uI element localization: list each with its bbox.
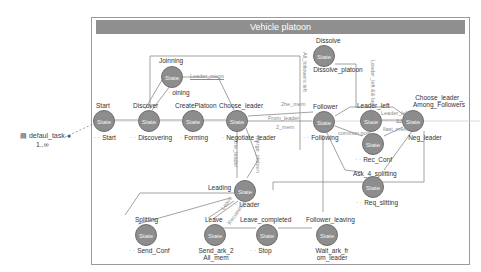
state-name-discover: Discover <box>133 102 158 109</box>
state-action-joinning: ·oining <box>168 89 190 96</box>
task-port-dot-icon: ● <box>67 132 71 139</box>
state-action-choose-leader-among: ·Neg_leader <box>404 134 442 141</box>
task-multiplicity: 1..∞ <box>36 141 49 148</box>
state-action-start: · ·Start <box>94 134 116 141</box>
state-name-joinning: Joinning <box>159 57 183 64</box>
state-name-follower-leaving: Follower_leaving <box>306 216 355 223</box>
state-action-splitting: · ·Send_Conf <box>129 247 170 254</box>
state-splitting[interactable]: State <box>135 224 157 246</box>
state-action-ask-4-splitting: · ·Req_slitting <box>356 199 398 206</box>
transition-label-leader-mego: Leader_mego <box>190 73 224 79</box>
state-name-splitting: Splitting <box>135 216 158 223</box>
transition-label-last-mem: llast_mem <box>383 126 408 132</box>
state-follower[interactable]: State <box>313 111 335 133</box>
state-name-leave: Leave <box>205 216 223 223</box>
transition-label-all-followers-left: All_followers left <box>302 52 308 92</box>
state-name-leading: Leading <box>208 184 231 191</box>
state-follower-leaving[interactable]: State <box>316 224 338 246</box>
transition-label-common-goal: common goal <box>338 130 371 136</box>
state-action-follower: · ·Following <box>303 134 339 141</box>
default-task[interactable]: ▤ defaul_task ● <box>20 132 71 140</box>
transition-label-2he-mem: 2he_mem <box>281 101 305 107</box>
transition-label-leader-left-last-mem: Leader_left && last_mem <box>370 60 376 110</box>
state-action-discover: · ·Discovering <box>130 134 172 141</box>
state-createplatoon[interactable]: State <box>182 110 204 132</box>
state-leave-completed[interactable]: State <box>256 224 278 246</box>
task-icon: ▤ <box>20 132 27 139</box>
transition-label-and: && <box>396 118 403 124</box>
state-leave[interactable]: State <box>204 224 226 246</box>
transition-label-leader-left: Leader_left <box>381 110 409 116</box>
state-name-dissolve: Dissolve <box>316 37 341 44</box>
state-start[interactable]: State <box>93 110 115 132</box>
state-discover[interactable]: State <box>138 110 160 132</box>
state-name-follower: Follower <box>313 103 338 110</box>
transition-label-2he-leader: 2he_leader <box>233 140 239 168</box>
task-label: defaul_task <box>29 132 65 139</box>
transition-label-2-mem: 2_mem <box>276 124 294 130</box>
state-ask-4-splitting[interactable]: State <box>362 176 384 198</box>
state-rec-conf[interactable]: State <box>362 133 384 155</box>
state-action-leave: Send_ark_2 All_mem <box>196 247 236 261</box>
state-action-choose-leader: ·Negotiate_leader <box>222 134 276 141</box>
state-choose-leader[interactable]: State <box>226 110 248 132</box>
state-action-rec-conf: · ·Rec_Conf <box>355 156 392 163</box>
state-action-dissolve: ·Dissolve_platoon <box>309 66 363 73</box>
transition-label-merge-platoon: Merge_platoon <box>255 136 261 173</box>
state-name-choose-leader-among: Choose_leader_ Among_Followers <box>409 94 469 108</box>
state-name-start: Start <box>96 102 110 109</box>
state-machine-canvas: Vehicle platoon <box>0 0 481 272</box>
state-action-leave-completed: · ·Stop <box>250 247 272 254</box>
state-action-createplatoon: ·Forming <box>180 134 208 141</box>
state-name-createplatoon: CreatePlatoon <box>175 102 217 109</box>
state-joinning[interactable]: State <box>161 66 183 88</box>
state-name-choose-leader: Choose_leader <box>219 102 263 109</box>
state-action-follower-leaving: Wait_ark_fr om_leader <box>312 247 352 261</box>
transition-label-from-leader: From_leader <box>268 115 299 121</box>
state-dissolve[interactable]: State <box>313 45 335 67</box>
state-name-leave-completed: Leave_completed <box>240 216 291 223</box>
